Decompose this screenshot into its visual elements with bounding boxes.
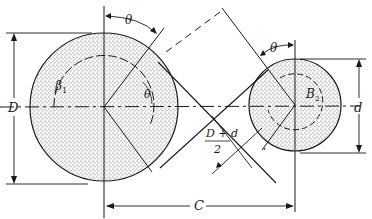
belt-drive-diagram: θ θ θ β1 B2 D d C D + d 2 (0, 0, 372, 219)
small-diameter-label: d (354, 100, 362, 115)
center-distance-label: C (194, 198, 204, 213)
half-sum-fraction: D + d 2 (205, 127, 238, 156)
theta-label-inner: θ (144, 88, 151, 101)
svg-text:D + d: D + d (205, 127, 238, 140)
large-diameter-label: D (7, 100, 19, 115)
dashed-construction-line (162, 12, 220, 55)
theta-label-small: θ (270, 41, 278, 55)
theta-label-large: θ (125, 13, 133, 27)
svg-text:2: 2 (213, 143, 221, 156)
half-sum-dimension-line (212, 116, 252, 168)
